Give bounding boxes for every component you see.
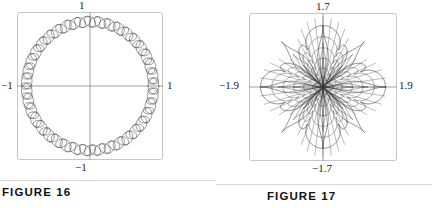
figure-17-label-right: 1.9 xyxy=(399,80,413,91)
figure-17-label-bottom: −1.7 xyxy=(312,163,332,174)
figure-16-plot xyxy=(17,12,163,160)
figure-17-caption: FIGURE 17 xyxy=(267,190,336,202)
figure-17-label-top: 1.7 xyxy=(316,1,330,12)
figure-17-plot-svg xyxy=(249,13,397,161)
figure-17-caption-rule xyxy=(216,184,432,185)
figure-16-caption: FIGURE 16 xyxy=(2,186,71,198)
figure-16: 1 −1 1 −1 FIGURE 16 xyxy=(0,0,216,208)
figure-16-label-top: 1 xyxy=(79,0,85,11)
figure-17-label-left: −1.9 xyxy=(219,80,239,91)
figure-17-plot xyxy=(249,13,397,161)
rose-curves xyxy=(261,26,386,149)
figure-16-caption-rule xyxy=(0,180,216,181)
figure-16-label-right: 1 xyxy=(167,80,173,91)
figure-16-plot-svg xyxy=(17,12,163,160)
figure-16-label-bottom: −1 xyxy=(75,162,87,173)
figure-17: 1.7 −1.9 1.9 −1.7 FIGURE 17 xyxy=(216,0,432,208)
cropped-footer-text: • · · · · · · · xyxy=(0,205,432,208)
figure-16-label-left: −1 xyxy=(1,80,13,91)
